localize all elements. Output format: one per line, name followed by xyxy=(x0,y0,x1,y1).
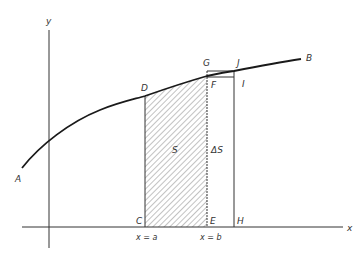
label-i: I xyxy=(242,79,245,89)
label-f: F xyxy=(211,80,217,90)
area-under-curve-diagram: y x A B D G J F I S ΔS C E H x = a x = b xyxy=(0,0,364,260)
label-e: E xyxy=(210,216,216,226)
y-axis-label: y xyxy=(45,16,52,26)
x-axis-label: x xyxy=(346,223,353,233)
label-x-equals-a: x = a xyxy=(135,233,158,242)
label-c: C xyxy=(136,216,143,226)
label-g: G xyxy=(203,58,210,68)
label-x-equals-b: x = b xyxy=(199,233,222,242)
label-h: H xyxy=(237,216,244,226)
label-s: S xyxy=(172,145,178,155)
label-j: J xyxy=(235,58,240,68)
label-d: D xyxy=(141,83,148,93)
label-a: A xyxy=(14,174,21,184)
label-b: B xyxy=(306,53,312,63)
label-delta-s: ΔS xyxy=(210,145,223,155)
